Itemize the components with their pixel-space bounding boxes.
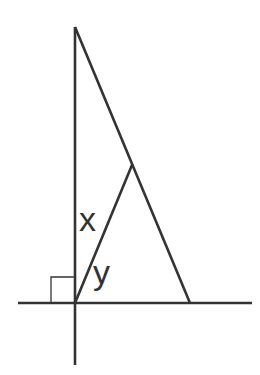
angle-y-label: y [93, 253, 110, 291]
geometry-diagram: x y [0, 0, 260, 375]
angle-x-label: x [79, 200, 96, 238]
right-angle-marker [51, 277, 74, 303]
